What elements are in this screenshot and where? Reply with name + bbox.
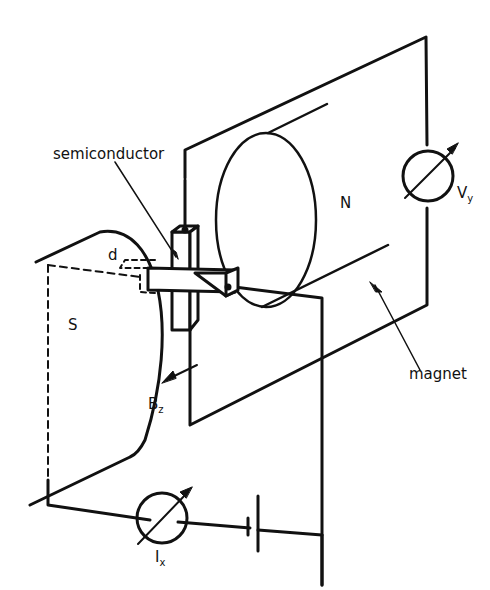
semiconductor-pointer (115, 162, 178, 259)
current-label-sub: x (159, 557, 165, 568)
north-pole-magnet (216, 104, 388, 307)
voltage-label: Vy (457, 186, 473, 201)
voltage-label-sub: y (467, 193, 473, 204)
field-label: Bz (148, 397, 164, 412)
south-pole-label: S (68, 318, 78, 333)
current-label: Ix (155, 550, 165, 565)
ammeter-icon (137, 487, 192, 544)
magnet-label: magnet (409, 367, 467, 382)
magnet-pointer (370, 282, 420, 370)
current-circuit (178, 496, 322, 585)
south-pole-magnet (30, 231, 162, 520)
field-arrow-icon (162, 365, 197, 383)
diagram-canvas (0, 0, 490, 590)
field-label-main: B (148, 395, 158, 413)
field-label-sub: z (158, 404, 163, 415)
voltage-circuit-plane (185, 37, 427, 425)
hall-effect-diagram: semiconductor N S magnet d Bz Ix Vy (0, 0, 490, 590)
semiconductor-label: semiconductor (53, 147, 164, 162)
voltage-label-main: V (457, 184, 467, 202)
current-lead-right (227, 286, 322, 585)
voltmeter-icon (403, 143, 458, 201)
thickness-label: d (108, 248, 118, 263)
north-pole-label: N (340, 196, 351, 211)
